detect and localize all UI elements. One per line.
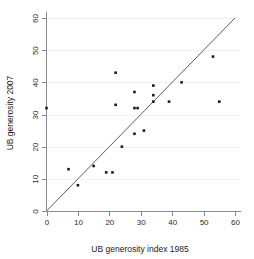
- y-tick-label-60: 60: [31, 14, 40, 23]
- data-point: [180, 81, 183, 84]
- data-point: [152, 100, 155, 103]
- x-tick-label-50: 50: [200, 218, 209, 227]
- data-point: [121, 145, 124, 148]
- data-point: [111, 171, 114, 174]
- data-point: [152, 84, 155, 87]
- data-point: [45, 107, 48, 110]
- data-point: [133, 133, 136, 136]
- x-axis-title: UB generosity index 1985: [91, 244, 189, 254]
- data-point: [105, 171, 108, 174]
- x-tick-label-10: 10: [74, 218, 83, 227]
- data-point: [218, 100, 221, 103]
- data-point: [67, 168, 70, 171]
- gridlines: [47, 19, 242, 180]
- y-tick-labels: 0102030405060: [31, 14, 40, 214]
- x-tick-label-20: 20: [105, 218, 114, 227]
- data-point: [168, 100, 171, 103]
- x-tick-labels: 0102030405060: [45, 218, 241, 227]
- y-tick-label-50: 50: [31, 46, 40, 55]
- y-tick-label-40: 40: [31, 78, 40, 87]
- y-tick-label-20: 20: [31, 142, 40, 151]
- x-tick-label-40: 40: [168, 218, 177, 227]
- data-points: [45, 55, 220, 186]
- y-tick-label-30: 30: [31, 110, 40, 119]
- data-point: [77, 184, 80, 187]
- data-point: [143, 129, 146, 132]
- x-tick-label-0: 0: [45, 218, 50, 227]
- data-point: [114, 104, 117, 107]
- data-point: [133, 91, 136, 94]
- scatter-plot-figure: 0102030405060 0102030405060 UB generosit…: [0, 0, 254, 259]
- data-point: [136, 107, 139, 110]
- data-point: [152, 94, 155, 97]
- data-point: [212, 55, 215, 58]
- y-tick-label-10: 10: [31, 174, 40, 183]
- x-tick-label-60: 60: [231, 218, 240, 227]
- x-tick-label-30: 30: [137, 218, 146, 227]
- data-point: [114, 71, 117, 74]
- plot-canvas: 0102030405060 0102030405060 UB generosit…: [0, 0, 254, 259]
- data-point: [92, 165, 95, 168]
- y-axis-title: UB generosity 2007: [5, 75, 15, 150]
- data-point: [133, 107, 136, 110]
- y-tick-label-0: 0: [31, 209, 40, 214]
